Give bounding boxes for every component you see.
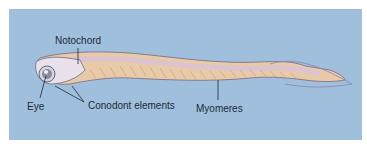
conodont-leader-1 xyxy=(55,86,84,102)
label-eye: Eye xyxy=(27,101,44,112)
label-notochord: Notochord xyxy=(55,35,101,46)
conodont-animal-illustration xyxy=(0,0,367,148)
label-myomeres: Myomeres xyxy=(196,103,243,114)
conodont-leader-2 xyxy=(72,86,84,102)
label-conodont-elements: Conodont elements xyxy=(88,100,175,111)
